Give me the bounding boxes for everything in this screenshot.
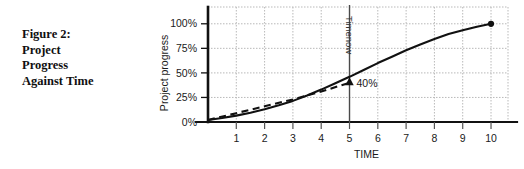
y-tick-label: 50% [176, 67, 197, 79]
y-tick-label: 75% [176, 42, 197, 54]
chart-svg: 0%25%50%75%100% 12345678910 Timenow 40% … [0, 0, 524, 169]
project-progress-chart: 0%25%50%75%100% 12345678910 Timenow 40% … [0, 0, 524, 169]
x-tick-label: 2 [262, 132, 268, 144]
y-tick-label: 25% [176, 91, 197, 103]
x-tick-label: 1 [233, 132, 239, 144]
y-axis-tick-labels: 0%25%50%75%100% [170, 17, 197, 127]
x-tick-label: 9 [460, 132, 466, 144]
y-tick-label: 0% [182, 116, 197, 128]
y-tick-label: 100% [170, 17, 197, 29]
x-tick-label: 8 [431, 132, 437, 144]
planned-progress-line [208, 83, 350, 120]
x-tick-label: 7 [403, 132, 409, 144]
progress-callout-label: 40% [357, 77, 378, 89]
x-axis-tick-labels: 12345678910 [233, 132, 497, 144]
x-tick-label: 3 [290, 132, 296, 144]
actual-progress-end-marker [488, 21, 494, 27]
x-tick-label: 4 [318, 132, 324, 144]
x-tick-label: 5 [347, 132, 353, 144]
x-tick-label: 10 [485, 132, 497, 144]
timenow-label: Timenow [344, 16, 355, 54]
x-axis-title: TIME [354, 148, 379, 160]
x-tick-label: 6 [375, 132, 381, 144]
y-axis-title: Project progress [158, 35, 170, 111]
